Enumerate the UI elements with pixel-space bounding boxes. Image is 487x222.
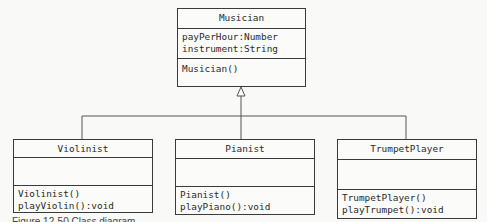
operation: Violinist() [18, 188, 148, 200]
class-operations: Pianist() playPiano():void [176, 186, 314, 214]
class-name: Violinist [14, 140, 152, 157]
operation: playPiano():void [180, 201, 310, 213]
operation: playTrumpet():void [342, 204, 472, 216]
generalization-arrow-icon [237, 87, 245, 96]
class-musician: Musician payPerHour:Number instrument:St… [177, 8, 306, 87]
attribute: instrument:String [182, 43, 301, 55]
class-name: Pianist [176, 140, 314, 158]
class-name: TrumpetPlayer [338, 140, 476, 159]
class-trumpetplayer: TrumpetPlayer TrumpetPlayer() playTrumpe… [337, 139, 477, 219]
class-operations: Musician() [178, 58, 305, 86]
attribute: payPerHour:Number [182, 31, 301, 43]
operation: playViolin():void [18, 200, 148, 212]
class-violinist: Violinist Violinist() playViolin():void [13, 139, 153, 213]
operation: Pianist() [180, 189, 310, 201]
class-attributes: payPerHour:Number instrument:String [178, 28, 305, 58]
class-pianist: Pianist Pianist() playPiano():void [175, 139, 315, 215]
figure-caption: Figure 12-50 Class diagram [12, 216, 135, 222]
operation: TrumpetPlayer() [342, 192, 472, 204]
class-attributes [338, 159, 476, 189]
class-attributes [176, 158, 314, 186]
class-attributes [14, 157, 152, 185]
operation: Musician() [182, 63, 301, 75]
class-name: Musician [178, 9, 305, 28]
class-operations: Violinist() playViolin():void [14, 185, 152, 212]
class-operations: TrumpetPlayer() playTrumpet():void [338, 189, 476, 218]
